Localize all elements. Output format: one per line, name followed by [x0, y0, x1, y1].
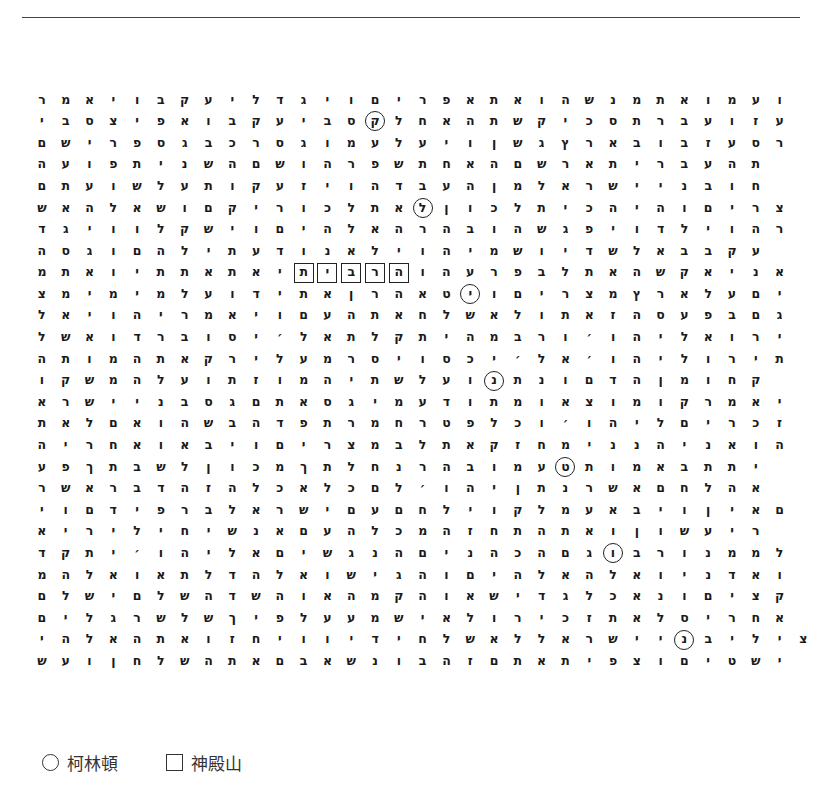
grid-letter: ו [768, 90, 792, 110]
grid-letter: י [482, 565, 506, 585]
grid-letter: ׳ [125, 543, 149, 563]
grid-letter: ל [506, 630, 530, 650]
grid-letter: ה [411, 565, 435, 585]
grid-letter: ו [292, 241, 316, 261]
grid-letter: ן [101, 651, 125, 671]
grid-letter: ל [506, 306, 530, 326]
grid-letter: ד [363, 630, 387, 650]
grid-letter: י [197, 543, 221, 563]
grid-letter: ש [125, 176, 149, 196]
grid-letter: ם [506, 284, 530, 304]
grid-letter: י [649, 327, 673, 347]
grid-row: העופתינשהםשוהרפשתחאהםשראתירבעהת [30, 154, 820, 176]
grid-letter: י [363, 392, 387, 412]
grid-letter: ח [244, 630, 268, 650]
grid-letter: ח [482, 522, 506, 542]
grid-letter: מ [506, 457, 530, 477]
grid-letter: נ [363, 651, 387, 671]
grid-letter: ם [768, 500, 792, 520]
grid-letter: ם [411, 543, 435, 563]
grid-letter: ה [625, 263, 649, 283]
grid-letter: ת [530, 198, 554, 218]
grid-letter: ר [363, 284, 387, 304]
grid-letter: י [673, 435, 697, 455]
grid-letter: נ [601, 435, 625, 455]
grid-letter: ת [363, 371, 387, 391]
grid-letter: ע [696, 155, 720, 175]
grid-letter: ס [601, 111, 625, 131]
grid-letter: ׳ [411, 478, 435, 498]
grid-letter: י [458, 500, 482, 520]
grid-letter: ג [768, 306, 792, 326]
grid-letter: ו [720, 327, 744, 347]
letter-grid: רמאיובקעילדגיוםירפאתאוהשנמתאומעויבסציפאו… [30, 89, 820, 672]
grid-letter: ו [673, 500, 697, 520]
grid-letter: צ [791, 630, 815, 650]
grid-letter: ל [173, 457, 197, 477]
grid-letter: ד [125, 327, 149, 347]
grid-letter: ם [268, 543, 292, 563]
grid-letter: ה [339, 306, 363, 326]
grid-letter: ץ [625, 284, 649, 304]
grid-letter: ר [720, 414, 744, 434]
legend-item-square: 神殿山 [166, 750, 242, 775]
grid-letter: א [268, 522, 292, 542]
grid-letter: ז [458, 651, 482, 671]
grid-letter: ו [78, 155, 102, 175]
grid-letter: ב [506, 327, 530, 347]
grid-letter: ב [673, 155, 697, 175]
grid-letter: ו [673, 198, 697, 218]
grid-letter: י [101, 586, 125, 606]
grid-letter: ם [673, 414, 697, 434]
grid-letter: ר [339, 414, 363, 434]
grid-letter: ת [482, 392, 506, 412]
grid-letter: ר [411, 219, 435, 239]
grid-letter: א [696, 263, 720, 283]
grid-letter: ש [601, 241, 625, 261]
grid-letter: ל [149, 176, 173, 196]
grid-letter: ו [673, 543, 697, 563]
grid-letter: כ [577, 198, 601, 218]
grid-letter: ה [387, 284, 411, 304]
grid-letter: צ [339, 435, 363, 455]
grid-letter: ח [125, 651, 149, 671]
grid-letter: ש [173, 586, 197, 606]
grid-letter: ו [316, 133, 340, 153]
grid-letter: נ [173, 155, 197, 175]
grid-letter: ז [506, 435, 530, 455]
square-icon [166, 754, 183, 771]
grid-letter: ו [601, 327, 625, 347]
grid-letter: ת [173, 565, 197, 585]
grid-letter: י [720, 522, 744, 542]
grid-letter: א [601, 263, 625, 283]
grid-letter: ד [387, 176, 411, 196]
grid-letter: ר [30, 478, 54, 498]
grid-letter: ג [220, 392, 244, 412]
grid-letter: ן [696, 500, 720, 520]
grid-letter: ה [197, 651, 221, 671]
grid-letter: ק [173, 219, 197, 239]
grid-letter: ם [244, 155, 268, 175]
grid-letter: ה [649, 198, 673, 218]
grid-letter: י [577, 651, 601, 671]
grid-letter: ב [387, 435, 411, 455]
grid-letter: ס [744, 133, 768, 153]
grid-letter: ה [506, 565, 530, 585]
grid-letter: ד [220, 565, 244, 585]
grid-letter: א [768, 608, 792, 628]
grid-letter: ז [577, 608, 601, 628]
grid-letter: ע [363, 500, 387, 520]
grid-letter: ל [78, 565, 102, 585]
grid-letter: י [78, 284, 102, 304]
grid-letter: י [768, 651, 792, 671]
legend-circle-label: 柯林頓 [67, 750, 118, 775]
grid-letter: פ [268, 608, 292, 628]
grid-row: יהלאהתאוזחיווידיחלשאללארשיינביליצ [30, 629, 820, 651]
grid-letter: י [554, 198, 578, 218]
grid-row: םלשיםלשהדשהואהמקהואשידגלכאנוםיצק [30, 586, 820, 608]
grid-letter: ם [125, 586, 149, 606]
grid-letter: ש [316, 543, 340, 563]
grid-letter: ב [696, 630, 720, 650]
grid-letter: א [768, 263, 792, 283]
grid-letter: ו [601, 349, 625, 369]
